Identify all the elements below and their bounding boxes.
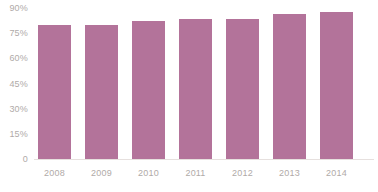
- bar: [226, 19, 259, 159]
- bars-layer: [34, 0, 378, 160]
- bar: [132, 21, 165, 159]
- x-tick-label-2014: 2014: [313, 168, 360, 178]
- y-tick-label-75: 75%: [9, 29, 28, 38]
- y-tick-label-90: 90%: [9, 4, 28, 13]
- bar: [320, 12, 353, 159]
- bar: [38, 25, 71, 159]
- x-tick-label-2012: 2012: [219, 168, 266, 178]
- x-tick-label-2010: 2010: [125, 168, 172, 178]
- y-tick-label-0: 0: [23, 155, 28, 164]
- y-tick-label-30: 30%: [9, 105, 28, 114]
- bar: [179, 19, 212, 159]
- y-tick-label-45: 45%: [9, 80, 28, 89]
- x-tick-label-2011: 2011: [172, 168, 219, 178]
- x-axis: 2008 2009 2010 2011 2012 2013 2014: [34, 168, 378, 184]
- bar-chart: 90% 75% 60% 45% 30% 15% 0 2008 2009 2010…: [0, 0, 378, 192]
- plot-area: [34, 0, 378, 192]
- y-axis: 90% 75% 60% 45% 30% 15% 0: [0, 0, 34, 192]
- x-tick-label-2013: 2013: [266, 168, 313, 178]
- bar: [85, 25, 118, 159]
- y-tick-label-15: 15%: [9, 130, 28, 139]
- y-tick-label-60: 60%: [9, 54, 28, 63]
- bar: [273, 14, 306, 159]
- x-tick-label-2009: 2009: [78, 168, 125, 178]
- x-tick-label-2008: 2008: [31, 168, 78, 178]
